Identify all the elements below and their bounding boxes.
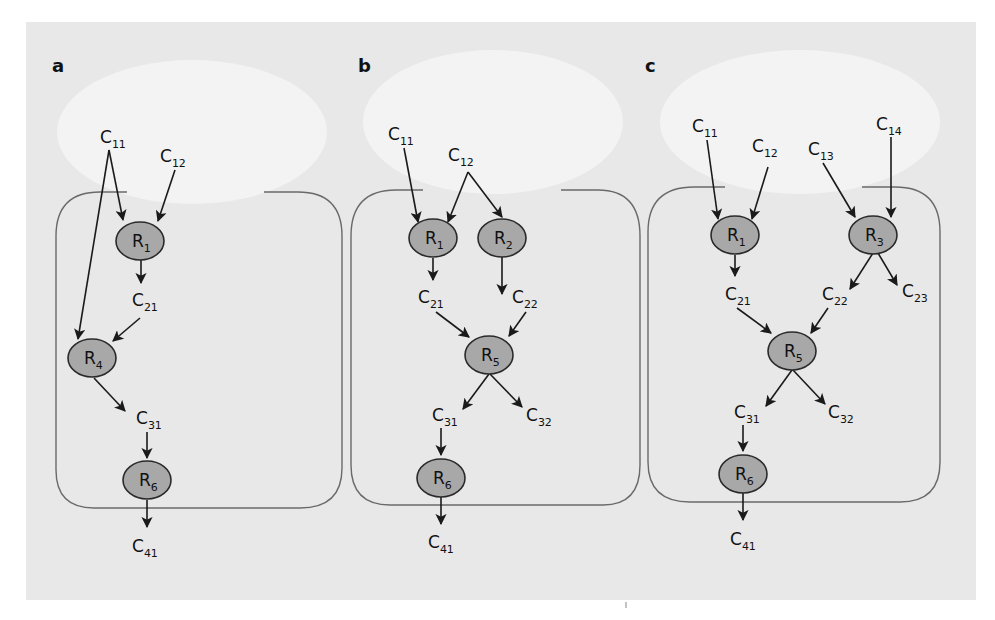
reaction-network-figure: a R1 R4 R6 C11 C12 C21 C31 C41 [0,0,995,620]
node-R6: R6 [417,459,465,497]
node-R5: R5 [465,336,513,374]
node-R1: R1 [711,216,759,254]
panel-letter-c: c [645,55,656,76]
node-R4: R4 [68,339,116,377]
extracellular-halo-b [363,50,623,194]
node-R1: R1 [116,222,164,260]
node-R3: R3 [849,216,897,254]
panel-letter-a: a [52,55,64,76]
node-R6: R6 [123,461,171,499]
node-R5: R5 [768,332,816,370]
node-R6: R6 [719,455,767,493]
panel-letter-b: b [358,55,371,76]
node-R2: R2 [478,219,526,257]
extracellular-halo-a [57,60,327,204]
node-R1: R1 [409,219,457,257]
